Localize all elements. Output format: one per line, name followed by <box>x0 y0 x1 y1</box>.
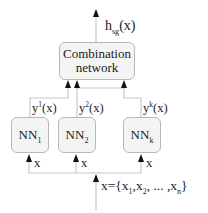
input-sep-1: ,x <box>133 178 143 193</box>
y-superscript: 1 <box>38 100 42 109</box>
input-sub-2: 2 <box>143 187 147 196</box>
y-arg: (x) <box>153 101 168 115</box>
input-sub-n: n <box>177 187 181 196</box>
y-arg: (x) <box>89 101 104 115</box>
y-superscript: k <box>149 100 153 109</box>
nn-index: k <box>149 136 153 145</box>
output-arg: (x) <box>119 18 135 33</box>
nn-name: NN <box>131 127 150 142</box>
nn1-output-label: y1(x) <box>32 101 57 116</box>
combination-label-line2: network <box>76 61 119 75</box>
input-suffix: } <box>181 178 187 193</box>
y-arg: (x) <box>42 101 57 115</box>
nnk-box: NNk <box>123 117 161 153</box>
nn-index: 2 <box>84 136 88 145</box>
combination-label-line1: Combination <box>63 47 131 61</box>
nnk-input-label: x <box>146 156 152 171</box>
output-label: hsg(x) <box>105 18 135 34</box>
nn2-box: NN2 <box>58 117 96 153</box>
input-sep-2: , ... ,x <box>147 178 177 193</box>
combination-network-box: Combination network <box>59 42 135 80</box>
nn1-input-label: x <box>34 156 40 171</box>
input-sub-1: 1 <box>129 187 133 196</box>
nn2-output-label: y2(x) <box>79 101 104 116</box>
nn1-box: NN1 <box>11 117 49 153</box>
output-symbol: h <box>105 18 112 33</box>
nn-index: 1 <box>37 136 41 145</box>
input-prefix: x={x <box>101 178 129 193</box>
output-subscript: sg <box>112 27 119 36</box>
input-vector-label: x={x1,x2, ... ,xn} <box>101 178 188 194</box>
nnk-output-label: yk(x) <box>143 101 168 116</box>
nn-name: NN <box>66 127 85 142</box>
nn-name: NN <box>19 127 38 142</box>
y-superscript: 2 <box>85 100 89 109</box>
nn2-input-label: x <box>81 156 87 171</box>
